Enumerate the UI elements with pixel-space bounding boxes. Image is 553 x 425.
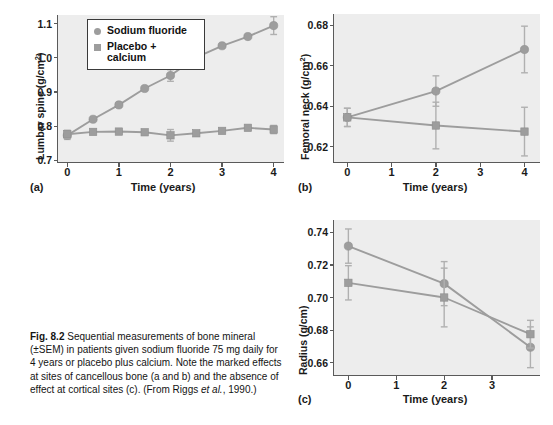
data-point-circle <box>115 101 123 109</box>
figure-caption: Fig. 8.2 Sequential measurements of bone… <box>30 330 286 396</box>
data-point-square <box>270 126 277 133</box>
data-point-circle <box>89 115 97 123</box>
data-point-circle <box>141 84 149 92</box>
data-point-circle <box>244 32 252 40</box>
chart-panel-femoral-neck: Femoral neck (g/cm2) 0.620.640.660.68 01… <box>290 0 553 200</box>
caption-et-al: et al. <box>201 384 223 395</box>
x-axis-label-b: Time (years) <box>375 182 495 193</box>
data-point-circle <box>520 45 528 53</box>
x-axis-line <box>57 162 284 163</box>
chart-panel-radius: Radius (g/cm) 0.660.680.700.720.74 0123 … <box>290 210 553 425</box>
data-point-square <box>345 279 352 286</box>
data-point-square <box>193 130 200 137</box>
panel-tag-b: (b) <box>298 182 312 193</box>
data-point-circle <box>166 71 174 79</box>
caption-tail: , 1990.) <box>223 384 257 395</box>
series-placebo-calcium <box>345 266 534 348</box>
x-axis-label-c: Time (years) <box>375 394 495 405</box>
caption-label: Fig. 8.2 <box>30 331 64 342</box>
y-axis-line <box>333 14 334 162</box>
panel-tag-c: (c) <box>298 394 311 405</box>
data-point-square <box>244 124 251 131</box>
data-point-circle <box>270 21 278 29</box>
y-axis-line <box>333 220 334 375</box>
data-point-square <box>527 331 534 338</box>
data-point-square <box>432 122 439 129</box>
legend-item-placebo-calcium: Placebo + calcium <box>94 41 197 64</box>
x-axis-label-a: Time (years) <box>103 182 223 193</box>
data-point-square <box>141 129 148 136</box>
chart-panel-lumbar-spine: Lumbar spine (g/cm2) 0.70.80.91.01.1 012… <box>0 0 290 200</box>
x-axis-line <box>333 375 540 376</box>
data-point-circle <box>432 87 440 95</box>
legend-item-sodium-fluoride: Sodium fluoride <box>94 25 197 37</box>
series-sodium-fluoride <box>344 229 534 368</box>
data-point-square <box>344 114 351 121</box>
data-point-circle <box>344 242 352 250</box>
legend: Sodium fluoride Placebo + calcium <box>87 19 205 70</box>
figure-8-2: Lumbar spine (g/cm2) 0.70.80.91.01.1 012… <box>0 0 553 425</box>
data-point-square <box>521 128 528 135</box>
data-point-square <box>115 128 122 135</box>
x-axis-line <box>333 162 540 163</box>
data-point-square <box>167 132 174 139</box>
series-placebo-calcium <box>64 124 278 141</box>
y-axis-line <box>57 15 58 162</box>
data-point-square <box>218 127 225 134</box>
circle-marker-icon <box>94 28 101 35</box>
square-marker-icon <box>94 44 101 51</box>
data-point-square <box>440 294 447 301</box>
panel-tag-a: (a) <box>30 182 43 193</box>
data-point-square <box>89 128 96 135</box>
legend-label-sodium-fluoride: Sodium fluoride <box>107 25 187 37</box>
legend-label-placebo-calcium: Placebo + calcium <box>107 41 156 64</box>
data-layer-b <box>290 0 553 200</box>
data-point-circle <box>218 42 226 50</box>
data-point-square <box>64 131 71 138</box>
